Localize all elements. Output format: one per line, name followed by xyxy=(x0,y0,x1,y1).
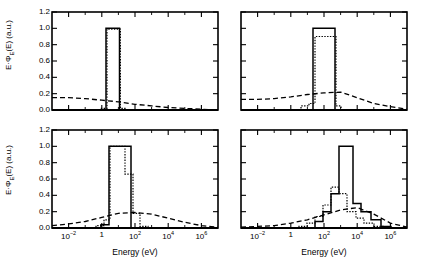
plot-top-right xyxy=(189,0,421,122)
x-tick-label-bl-1: 1 xyxy=(86,230,118,239)
panel-top-right xyxy=(189,0,421,122)
x-axis-label-bottom-left: Energy (eV) xyxy=(52,247,218,257)
x-axis-label-bottom-right: Energy (eV) xyxy=(241,247,407,257)
y-tick-label-2: 0.4 xyxy=(26,72,50,81)
y-tick-label-1: 0.2 xyxy=(26,207,50,216)
x-tick-label-br-4: 106 xyxy=(374,230,406,241)
dotted-histogram-curve xyxy=(241,187,407,228)
x-minor-ticks xyxy=(85,12,185,110)
y-tick-label-2: 0.4 xyxy=(26,190,50,199)
y-tick-label-0: 0.0 xyxy=(26,105,50,114)
x-minor-ticks xyxy=(274,130,374,228)
y-tick-label-6: 1.2 xyxy=(26,7,50,16)
figure-canvas: E·ΦE(E) (a.u.) E·ΦE(E) (a.u.) Energy (eV… xyxy=(0,0,421,262)
y-tick-label-0: 0.0 xyxy=(26,223,50,232)
x-major-ticks xyxy=(258,12,391,110)
x-tick-label-bl-0: 10−2 xyxy=(53,230,85,241)
x-major-ticks xyxy=(69,130,202,228)
y-tick-label-1: 0.2 xyxy=(26,89,50,98)
x-major-ticks xyxy=(69,12,202,110)
panel-bottom-right xyxy=(189,122,421,240)
y-tick-label-4: 0.8 xyxy=(26,40,50,49)
y-tick-label-5: 1.0 xyxy=(26,23,50,32)
y-tick-label-6: 1.2 xyxy=(26,125,50,134)
x-tick-label-br-0: 10−2 xyxy=(242,230,274,241)
y-tick-label-3: 0.6 xyxy=(26,56,50,65)
x-minor-ticks xyxy=(274,12,374,110)
x-minor-ticks xyxy=(85,130,185,228)
plot-frame xyxy=(241,12,407,110)
solid-histogram-curve xyxy=(241,146,407,228)
y-tick-label-5: 1.0 xyxy=(26,141,50,150)
x-tick-label-bl-2: 102 xyxy=(119,230,151,241)
x-tick-label-bl-4: 106 xyxy=(185,230,217,241)
plot-bottom-right xyxy=(189,122,421,240)
panel-top-left: 0.0 0.2 0.4 0.6 0.8 1.0 1.2 xyxy=(0,0,221,122)
x-tick-label-br-1: 1 xyxy=(275,230,307,239)
plot-frame xyxy=(241,130,407,228)
y-tick-label-3: 0.6 xyxy=(26,174,50,183)
y-major-ticks xyxy=(241,12,407,110)
solid-histogram-curve xyxy=(241,28,407,110)
x-tick-label-br-3: 104 xyxy=(341,230,373,241)
panel-bottom-left: 0.0 0.2 0.4 0.6 0.8 1.0 1.2 xyxy=(0,122,221,240)
y-major-ticks xyxy=(241,130,407,228)
x-tick-label-bl-3: 104 xyxy=(152,230,184,241)
x-tick-label-br-2: 102 xyxy=(308,230,340,241)
y-tick-label-4: 0.8 xyxy=(26,158,50,167)
